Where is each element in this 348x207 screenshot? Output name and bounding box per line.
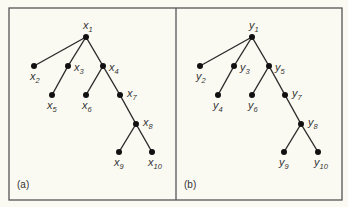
node-label-x10: x10: [147, 156, 163, 171]
tree-node-y7: [282, 92, 288, 98]
tree-node-x2: [31, 63, 37, 69]
node-label-x7: x7: [126, 87, 138, 102]
tree-edge: [218, 66, 234, 95]
tree-node-y1: [249, 34, 255, 40]
panel-a-label: (a): [17, 179, 29, 190]
tree-node-x5: [49, 92, 55, 98]
node-label-x6: x6: [81, 99, 93, 114]
tree-node-x9: [116, 149, 122, 155]
tree-edge: [86, 66, 103, 95]
node-label-y7: y7: [291, 87, 303, 102]
node-label-x3: x3: [73, 61, 85, 76]
tree-node-y2: [197, 63, 203, 69]
node-label-y2: y2: [195, 70, 207, 85]
tree-node-x8: [133, 121, 139, 127]
node-label-y1: y1: [248, 19, 259, 34]
node-label-y6: y6: [247, 99, 259, 114]
panel-a-nodes: x1x2x3x4x5x6x7x8x9x10: [29, 19, 163, 171]
node-label-y9: y9: [278, 156, 290, 171]
node-label-y3: y3: [239, 61, 251, 76]
tree-edge: [252, 37, 269, 66]
node-label-x4: x4: [108, 61, 119, 76]
node-label-y5: y5: [274, 61, 286, 76]
tree-node-x10: [149, 149, 155, 155]
panel-b-label: (b): [184, 179, 196, 190]
node-label-x2: x2: [29, 70, 41, 85]
tree-node-y5: [266, 63, 272, 69]
node-label-y8: y8: [307, 116, 319, 131]
tree-node-y9: [281, 149, 287, 155]
panel-b: y1y2y3y5y4y6y7y8y9y10 (b): [184, 19, 329, 190]
figure-canvas: x1x2x3x4x5x6x7x8x9x10 (a) y1y2y3y5y4y6y7…: [0, 0, 348, 207]
tree-node-x1: [83, 34, 89, 40]
tree-node-y8: [298, 121, 304, 127]
node-label-x5: x5: [46, 99, 58, 114]
node-label-y4: y4: [212, 99, 223, 114]
tree-comparison-figure: x1x2x3x4x5x6x7x8x9x10 (a) y1y2y3y5y4y6y7…: [0, 0, 348, 207]
tree-node-x6: [83, 92, 89, 98]
tree-node-y6: [249, 92, 255, 98]
tree-edge: [86, 37, 103, 66]
tree-node-y4: [215, 92, 221, 98]
node-label-x9: x9: [113, 156, 125, 171]
tree-edge: [52, 66, 68, 95]
node-label-x1: x1: [82, 19, 93, 34]
tree-node-y10: [315, 149, 321, 155]
tree-node-y3: [231, 63, 237, 69]
tree-edge: [119, 124, 136, 152]
tree-edge: [252, 66, 269, 95]
tree-node-x3: [65, 63, 71, 69]
tree-node-x4: [100, 63, 106, 69]
node-label-x8: x8: [142, 116, 154, 131]
tree-node-x7: [117, 92, 123, 98]
panel-a: x1x2x3x4x5x6x7x8x9x10 (a): [17, 19, 163, 190]
tree-edge: [284, 124, 301, 152]
panel-b-nodes: y1y2y3y5y4y6y7y8y9y10: [195, 19, 329, 171]
node-label-y10: y10: [313, 156, 329, 171]
